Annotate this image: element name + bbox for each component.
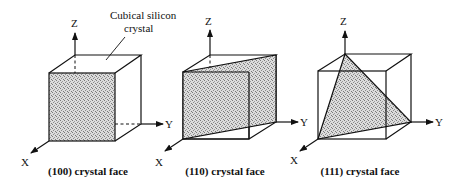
x-axis-label: X (155, 156, 163, 168)
z-axis-label: Z (71, 17, 78, 29)
annotation-line-2: crystal (124, 22, 153, 34)
x-axis-label: X (290, 154, 298, 166)
shaded-face-100 (49, 73, 115, 141)
annotation-line-1: Cubical silicon (110, 9, 177, 21)
caption-110: (110) crystal face (185, 165, 265, 178)
shaded-face-111 (318, 54, 411, 139)
x-axis-arrow (300, 139, 318, 151)
y-axis-label: Y (165, 118, 173, 130)
y-axis-label: Y (435, 116, 443, 128)
x-axis-arrow (165, 139, 183, 151)
caption-100: (100) crystal face (48, 165, 128, 178)
z-axis-label: Z (205, 15, 212, 27)
crystal-planes-diagram: Z Y X Cubical silicon crystal (100) crys… (0, 0, 460, 186)
annotation-leader-line (106, 37, 125, 60)
panel-100: Z Y X Cubical silicon crystal (100) crys… (21, 9, 177, 178)
caption-111: (111) crystal face (321, 165, 400, 178)
x-axis-arrow (31, 141, 49, 153)
y-axis-label: Y (300, 116, 308, 128)
panel-111: Z Y X (111) crystal face (290, 15, 443, 178)
shaded-face-110 (183, 55, 276, 139)
x-axis-label: X (21, 156, 29, 168)
z-axis-label: Z (340, 15, 347, 27)
panel-110: Z Y X (110) crystal face (155, 15, 308, 178)
